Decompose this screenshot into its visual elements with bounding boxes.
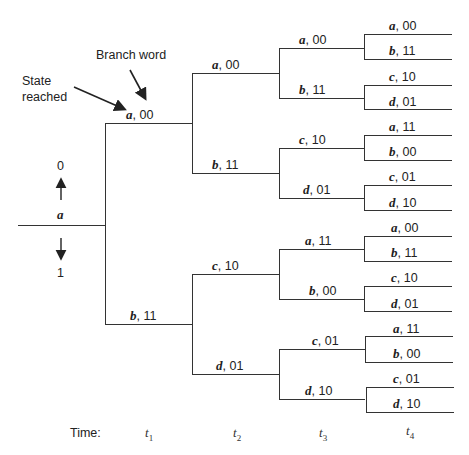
t4-label-14: c, 01 <box>393 372 420 386</box>
t3-label-6: c, 01 <box>312 334 339 348</box>
t4-label-5: b, 00 <box>389 145 416 159</box>
t3-branch-1 <box>279 98 365 99</box>
t4-leaf-1 <box>364 59 452 60</box>
state-reached-label-line2: reached <box>22 89 67 105</box>
root-branch <box>18 225 106 226</box>
t4-label-2: c, 10 <box>389 70 416 84</box>
state-reached-arrow <box>74 87 124 109</box>
t4-label-12: a, 11 <box>393 322 419 336</box>
time-tick-t2: t2 <box>233 425 241 443</box>
t1-label-0: a, 00 <box>126 108 153 122</box>
t4-label-6: c, 01 <box>389 170 416 184</box>
trellis-tree-diagram: Branch word State reached 0 1 a a, 00 b,… <box>0 0 469 455</box>
t4-label-3: d, 01 <box>389 95 416 109</box>
t3-branch-6 <box>279 349 365 350</box>
t4-leaf-14 <box>366 387 454 388</box>
t4-leaf-12 <box>365 336 453 337</box>
branch-word-arrow <box>130 70 145 98</box>
t2-label-0: a, 00 <box>212 58 239 72</box>
t4-leaf-6 <box>364 185 452 186</box>
t4-label-0: a, 00 <box>389 19 416 33</box>
t3-branch-4 <box>279 249 365 250</box>
t4-leaf-5 <box>364 160 452 161</box>
t4-split-7 <box>366 387 367 413</box>
t3-split-3 <box>279 349 280 400</box>
t3-split-1 <box>279 148 280 199</box>
t4-split-5 <box>364 286 365 312</box>
t2-branch-3 <box>192 374 279 375</box>
root-state-label: a <box>57 208 64 222</box>
t4-leaf-11 <box>364 311 452 312</box>
time-axis-label: Time: <box>70 426 101 440</box>
time-tick-t1: t1 <box>145 425 153 443</box>
t2-label-2: c, 10 <box>212 259 239 273</box>
t3-branch-2 <box>279 148 365 149</box>
t4-leaf-2 <box>364 85 452 86</box>
t4-label-10: c, 10 <box>391 271 418 285</box>
t3-branch-7 <box>279 399 365 400</box>
t4-label-11: d, 01 <box>391 297 418 311</box>
t4-label-4: a, 11 <box>389 120 415 134</box>
time-tick-t4: t4 <box>406 423 414 441</box>
t3-branch-0 <box>279 48 365 49</box>
t3-branch-5 <box>279 299 365 300</box>
t4-leaf-7 <box>364 210 452 211</box>
t3-split-2 <box>279 249 280 300</box>
t4-split-3 <box>364 185 365 211</box>
input-zero-label: 0 <box>57 158 64 174</box>
t4-label-7: d, 10 <box>389 196 416 210</box>
t3-label-7: d, 10 <box>305 384 332 398</box>
t3-split-0 <box>279 48 280 99</box>
t3-label-1: b, 11 <box>299 83 325 97</box>
t4-leaf-15 <box>366 412 454 413</box>
t4-leaf-4 <box>364 135 452 136</box>
t4-leaf-8 <box>364 236 452 237</box>
t1-split <box>105 123 106 325</box>
t2-label-1: b, 11 <box>212 158 238 172</box>
t4-split-0 <box>364 34 365 60</box>
t4-label-8: a, 00 <box>391 221 418 235</box>
t1-branch-lower <box>105 324 193 325</box>
branch-word-label: Branch word <box>96 47 166 63</box>
t4-leaf-0 <box>364 34 452 35</box>
t4-label-15: d, 10 <box>393 397 420 411</box>
t3-label-3: d, 01 <box>303 183 330 197</box>
input-one-label: 1 <box>57 265 64 281</box>
t2-branch-1 <box>192 173 279 174</box>
state-reached-label-line1: State <box>22 73 51 89</box>
t2-branch-2 <box>192 274 279 275</box>
t4-split-4 <box>364 236 365 262</box>
t1-label-1: b, 11 <box>130 309 156 323</box>
t4-label-9: b, 11 <box>391 246 417 260</box>
t4-leaf-3 <box>364 109 452 110</box>
t2-split-lower <box>192 274 193 375</box>
time-tick-t3: t3 <box>319 425 327 443</box>
t3-label-0: a, 00 <box>299 33 326 47</box>
t4-split-1 <box>364 85 365 110</box>
t1-branch-upper <box>105 123 193 124</box>
t3-label-5: b, 00 <box>309 284 336 298</box>
t2-label-3: d, 01 <box>216 359 243 373</box>
t3-branch-3 <box>279 198 365 199</box>
t4-label-1: b, 11 <box>389 44 415 58</box>
t3-label-2: c, 10 <box>299 133 326 147</box>
t4-leaf-13 <box>365 362 453 363</box>
t2-branch-0 <box>192 73 279 74</box>
t2-split-upper <box>192 73 193 174</box>
t4-split-6 <box>365 336 366 362</box>
t4-leaf-10 <box>364 286 452 287</box>
t3-label-4: a, 11 <box>305 234 331 248</box>
t4-label-13: b, 00 <box>393 347 420 361</box>
t4-leaf-9 <box>364 261 452 262</box>
t4-split-2 <box>364 135 365 161</box>
